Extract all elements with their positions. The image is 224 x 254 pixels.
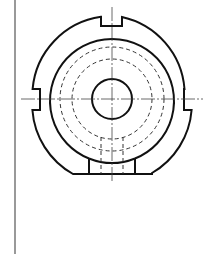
technical-drawing	[0, 0, 224, 254]
